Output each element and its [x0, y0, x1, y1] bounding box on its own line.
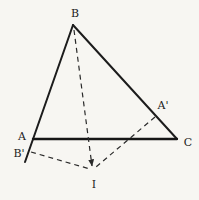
vertex-label-b: B	[71, 7, 79, 20]
vertex-label-c: C	[184, 136, 192, 149]
side-bc	[73, 25, 177, 139]
dashed-segment-a-prime-to-i	[96, 117, 155, 167]
point-label-b-prime: B'	[13, 147, 24, 160]
vertex-label-a: A	[17, 130, 27, 143]
dashed-segment-b-to-i	[74, 30, 92, 166]
side-ab-extended-to-b-prime	[25, 25, 73, 162]
triangle-diagram-svg: B A C A' B' I	[0, 0, 199, 200]
dashed-segment-b-prime-to-i	[31, 152, 90, 169]
point-label-a-prime: A'	[157, 99, 169, 112]
geometry-figure: B A C A' B' I	[0, 0, 199, 200]
point-label-i: I	[92, 178, 96, 191]
